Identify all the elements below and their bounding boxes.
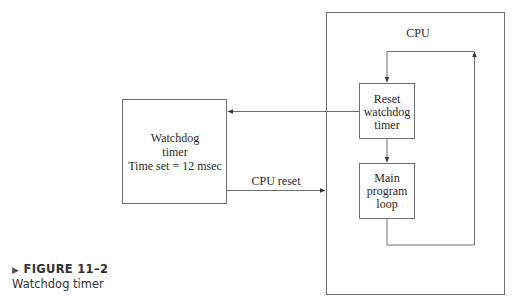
reset-label-1: Reset (374, 92, 401, 106)
main-label-3: loop (376, 197, 397, 211)
figure-number: ▶ FIGURE 11–2 (12, 262, 108, 276)
loop-top-line (387, 52, 475, 83)
watchdog-label-2: timer (162, 145, 187, 159)
reset-label-2: watchdog (364, 105, 411, 119)
main-label-1: Main (374, 171, 399, 185)
watchdog-label-1: Watchdog (151, 131, 199, 145)
watchdog-diagram: CPU Watchdog timer Time set = 12 msec Re… (0, 0, 527, 299)
figure-caption: ▶ FIGURE 11–2 Watchdog timer (12, 262, 108, 291)
cpu-reset-label: CPU reset (252, 174, 302, 188)
reset-label-3: timer (374, 118, 399, 132)
watchdog-label-3: Time set = 12 msec (128, 159, 222, 173)
figure-title: Watchdog timer (12, 277, 108, 291)
figure-label: FIGURE 11–2 (24, 262, 109, 276)
triangle-icon: ▶ (12, 265, 19, 275)
loop-return-line (387, 52, 475, 245)
cpu-label: CPU (406, 26, 430, 40)
cpu-box (327, 13, 505, 295)
main-label-2: program (367, 184, 408, 198)
